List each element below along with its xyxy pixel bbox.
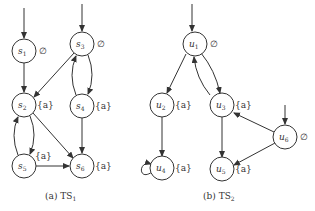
- state-u2: u2 {a}: [150, 93, 192, 117]
- edge-s2-s5: [30, 116, 34, 154]
- label-s5: {a}: [35, 151, 52, 161]
- label-s2: {a}: [37, 100, 54, 110]
- label-u1: ∅: [210, 39, 218, 49]
- state-s6: s6 {a}: [70, 154, 112, 178]
- caption-ts1: (a) TS1: [45, 191, 76, 202]
- state-s3: s3 ∅: [70, 32, 105, 56]
- state-u6: u6 ∅: [273, 125, 308, 149]
- ts2-diagram: u1 ∅ u2 {a} u3 {a} u4 {a} u5 {a} u6 ∅ (: [141, 4, 308, 202]
- state-u5: u5 {a}: [210, 157, 252, 181]
- ts1-diagram: s1 ∅ s2 {a} s3 ∅ s4 {a} s5 {a} s6 {a} (: [12, 4, 112, 202]
- edge-u6-u3: [234, 113, 274, 132]
- label-s3: ∅: [97, 39, 105, 49]
- edge-u6-u5: [234, 143, 275, 165]
- transition-systems-figure: s1 ∅ s2 {a} s3 ∅ s4 {a} s5 {a} s6 {a} (: [0, 0, 315, 211]
- label-u4: {a}: [175, 163, 192, 173]
- edge-s3-s2: [34, 53, 74, 97]
- state-s2: s2 {a}: [12, 93, 54, 117]
- label-s4: {a}: [95, 101, 112, 111]
- state-u1: u1 ∅: [183, 32, 218, 56]
- edge-s5-s2: [14, 117, 18, 155]
- edge-u1-u2: [167, 54, 186, 93]
- state-s1: s1 ∅: [12, 39, 47, 63]
- state-s5: s5 {a}: [12, 151, 52, 178]
- label-s1: ∅: [39, 46, 47, 56]
- label-u5: {a}: [235, 164, 252, 174]
- state-u3: u3 {a}: [210, 93, 252, 117]
- caption-ts2: (b) TS2: [203, 191, 235, 202]
- edge-s3-s4: [88, 55, 92, 94]
- label-u3: {a}: [235, 100, 252, 110]
- label-u2: {a}: [175, 100, 192, 110]
- edge-s4-s3: [72, 56, 76, 95]
- label-s6: {a}: [95, 161, 112, 171]
- state-u4: u4 {a}: [150, 156, 192, 180]
- label-u6: ∅: [300, 132, 308, 142]
- state-s4: s4 {a}: [70, 94, 112, 118]
